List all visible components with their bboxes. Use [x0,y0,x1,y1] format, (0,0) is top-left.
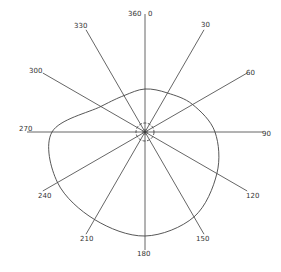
spoke-240 [43,132,145,191]
spoke-60 [145,73,247,132]
angle-label-150: 150 [196,235,209,243]
polar-curve [49,89,219,236]
spoke-150 [145,132,204,234]
spoke-210 [86,132,145,234]
angle-label-120: 120 [246,192,259,200]
angle-label-0: 0 [148,10,152,18]
spoke-30 [145,30,204,132]
polar-diagram: 0360306090120150180210240270300330 [0,0,281,272]
angle-label-240: 240 [38,192,51,200]
angle-label-60: 60 [246,69,255,77]
angle-label-300: 300 [29,67,42,75]
angle-label-30: 30 [201,21,210,29]
angle-label-180: 180 [137,250,150,258]
angle-label-270: 270 [19,125,32,133]
spoke-120 [145,132,247,191]
angle-label-360: 360 [128,10,141,18]
angle-label-330: 330 [74,22,87,30]
spoke-330 [86,30,145,132]
center-crosshair-icon [142,129,148,135]
angle-label-210: 210 [80,235,93,243]
spoke-300 [43,73,145,132]
angle-label-90: 90 [262,130,271,138]
